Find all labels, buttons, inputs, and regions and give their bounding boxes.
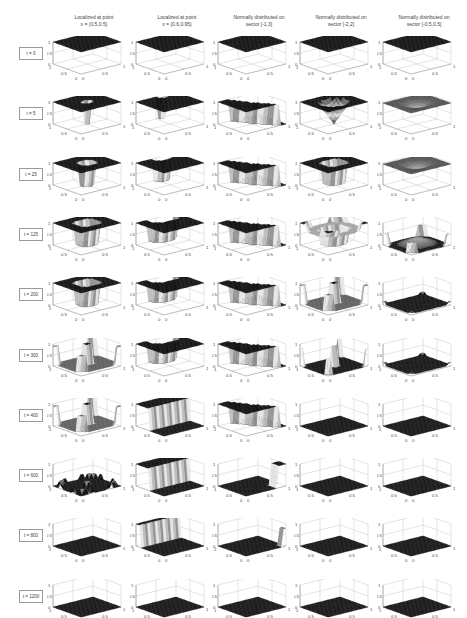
svg-text:0.5: 0.5 [294, 473, 299, 478]
svg-text:0: 0 [75, 257, 78, 262]
surface-subplot: 10.5010.5000.51 [130, 96, 212, 158]
svg-text:0: 0 [158, 136, 161, 141]
svg-text:0.5: 0.5 [102, 553, 108, 558]
svg-text:1: 1 [48, 281, 51, 286]
svg-text:0.5: 0.5 [391, 553, 397, 558]
svg-text:0: 0 [405, 438, 408, 443]
svg-text:0.5: 0.5 [267, 614, 273, 618]
svg-text:0.5: 0.5 [294, 171, 299, 176]
surface-subplot: 10.5010.5000.51 [130, 277, 212, 339]
svg-text:1: 1 [295, 220, 298, 225]
surface-subplot: 10.5010.5000.51 [130, 579, 212, 618]
svg-text:1: 1 [213, 100, 216, 105]
svg-text:1: 1 [132, 65, 135, 70]
svg-text:1: 1 [206, 124, 209, 129]
svg-text:0: 0 [165, 136, 168, 141]
svg-text:0: 0 [405, 378, 408, 383]
svg-text:0.5: 0.5 [102, 252, 108, 257]
svg-text:1: 1 [213, 220, 216, 225]
svg-text:0.5: 0.5 [61, 553, 67, 558]
svg-text:0.5: 0.5 [130, 412, 135, 417]
svg-text:0: 0 [165, 438, 168, 443]
svg-text:0.5: 0.5 [144, 614, 150, 618]
svg-text:1: 1 [49, 367, 52, 372]
svg-text:1: 1 [453, 245, 456, 250]
svg-text:0.5: 0.5 [267, 373, 273, 378]
svg-text:0: 0 [82, 197, 85, 202]
svg-text:0.5: 0.5 [226, 252, 232, 257]
svg-text:0: 0 [158, 558, 161, 563]
svg-text:1: 1 [296, 125, 299, 130]
svg-text:0.5: 0.5 [130, 593, 135, 598]
surface-subplot: 10.5010.5000.51 [130, 157, 212, 219]
svg-text:1: 1 [378, 522, 381, 527]
svg-text:0.5: 0.5 [308, 493, 314, 498]
svg-text:0.5: 0.5 [349, 252, 355, 257]
svg-text:0.5: 0.5 [294, 292, 299, 297]
svg-text:0: 0 [329, 378, 332, 383]
surface-subplot: 10.5010.5000.51 [377, 36, 459, 98]
svg-text:1: 1 [370, 64, 373, 69]
svg-text:1: 1 [206, 607, 209, 612]
column-title: Localized at pointx = (0.6,0.95) [134, 14, 220, 27]
svg-text:0.5: 0.5 [130, 171, 135, 176]
row-time-label: t = 300 [19, 349, 43, 362]
svg-text:0.5: 0.5 [144, 493, 150, 498]
svg-text:1: 1 [453, 486, 456, 491]
svg-text:0.5: 0.5 [226, 312, 232, 317]
svg-text:0.5: 0.5 [212, 111, 217, 116]
svg-text:1: 1 [378, 401, 381, 406]
svg-text:0.5: 0.5 [308, 312, 314, 317]
svg-text:0.5: 0.5 [102, 192, 108, 197]
svg-text:1: 1 [206, 245, 209, 250]
svg-text:0.5: 0.5 [212, 171, 217, 176]
surface-subplot: 10.5010.5000.51 [377, 96, 459, 158]
svg-text:0.5: 0.5 [102, 433, 108, 438]
surface-subplot: 10.5010.5000.51 [294, 398, 376, 460]
svg-text:0: 0 [329, 257, 332, 262]
svg-text:1: 1 [295, 462, 298, 467]
svg-text:0.5: 0.5 [349, 373, 355, 378]
svg-text:0: 0 [322, 197, 325, 202]
svg-text:0: 0 [329, 438, 332, 443]
svg-text:0.5: 0.5 [391, 252, 397, 257]
svg-text:0.5: 0.5 [144, 433, 150, 438]
svg-text:0: 0 [75, 76, 78, 81]
svg-text:0.5: 0.5 [130, 231, 135, 236]
svg-text:1: 1 [48, 582, 51, 587]
row-time-label: t = 25 [19, 168, 43, 181]
surface-subplot: 10.5010.5000.51 [130, 398, 212, 460]
svg-text:1: 1 [123, 366, 126, 371]
svg-text:1: 1 [370, 124, 373, 129]
surface-subplot: 10.5010.5000.51 [212, 579, 294, 618]
svg-text:1: 1 [131, 220, 134, 225]
svg-text:0: 0 [412, 136, 415, 141]
svg-text:0: 0 [165, 197, 168, 202]
svg-text:0.5: 0.5 [349, 433, 355, 438]
svg-text:1: 1 [378, 582, 381, 587]
svg-text:1: 1 [48, 40, 51, 45]
surface-subplot: 10.5010.5000.51 [294, 277, 376, 339]
svg-text:0: 0 [412, 498, 415, 503]
svg-text:0: 0 [329, 317, 332, 322]
svg-text:0: 0 [412, 317, 415, 322]
svg-text:0.5: 0.5 [267, 433, 273, 438]
svg-text:1: 1 [288, 64, 291, 69]
svg-text:1: 1 [131, 281, 134, 286]
svg-text:1: 1 [296, 65, 299, 70]
svg-text:0: 0 [412, 558, 415, 563]
svg-text:1: 1 [49, 186, 52, 191]
svg-text:0.5: 0.5 [377, 533, 382, 538]
svg-text:0.5: 0.5 [308, 71, 314, 76]
svg-text:1: 1 [453, 124, 456, 129]
svg-text:1: 1 [48, 462, 51, 467]
svg-text:0: 0 [405, 76, 408, 81]
svg-text:0: 0 [322, 257, 325, 262]
svg-text:0: 0 [75, 438, 78, 443]
svg-text:0.5: 0.5 [185, 614, 191, 618]
surface-subplot: 10.5010.5000.51 [294, 96, 376, 158]
svg-text:0: 0 [240, 558, 243, 563]
svg-text:0.5: 0.5 [212, 412, 217, 417]
svg-text:0.5: 0.5 [212, 231, 217, 236]
svg-text:0: 0 [82, 136, 85, 141]
